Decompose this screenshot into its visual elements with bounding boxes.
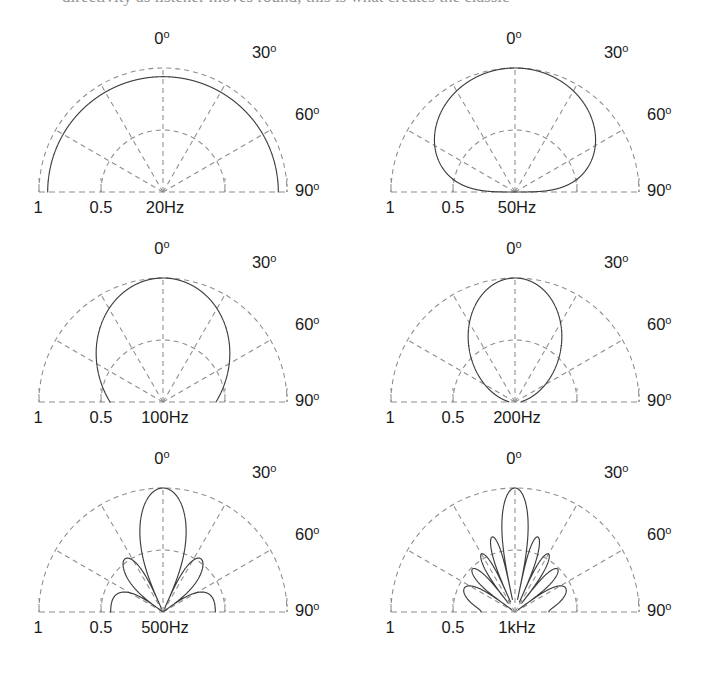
frequency-label: 1kHz — [498, 618, 536, 636]
frequency-label: 100Hz — [141, 408, 189, 426]
polar-plot-20hz: 0o30o60o90o10.520Hz — [0, 20, 352, 235]
angle-label-0: 0o — [506, 238, 521, 257]
radius-label-0.5: 0.5 — [90, 198, 113, 216]
grid-ray--60deg — [56, 130, 163, 192]
radius-label-1: 1 — [385, 198, 394, 216]
radius-label-1: 1 — [385, 618, 394, 636]
frequency-label: 200Hz — [493, 408, 541, 426]
angle-label-60: 60o — [647, 104, 671, 123]
angle-label-60: 60o — [295, 314, 319, 333]
angle-label-90: 90o — [295, 390, 319, 409]
grid-ray--60deg — [56, 550, 163, 612]
angle-label-90: 90o — [647, 600, 671, 619]
angle-label-30: 30o — [604, 42, 628, 61]
angle-label-0: 0o — [506, 28, 521, 47]
grid-ray-60deg — [515, 340, 622, 402]
grid-ray-60deg — [515, 550, 622, 612]
angle-label-0: 0o — [154, 28, 169, 47]
polar-plot-50hz: 0o30o60o90o10.550Hz — [352, 20, 704, 235]
angle-label-30: 30o — [604, 252, 628, 271]
polar-plot-grid: 0o30o60o90o10.520Hz0o30o60o90o10.550Hz0o… — [0, 0, 704, 690]
angle-label-90: 90o — [295, 600, 319, 619]
grid-ray--60deg — [408, 130, 515, 192]
angle-label-60: 60o — [647, 524, 671, 543]
radius-label-0.5: 0.5 — [442, 198, 465, 216]
radius-label-0.5: 0.5 — [90, 618, 113, 636]
angle-label-60: 60o — [647, 314, 671, 333]
frequency-label: 20Hz — [146, 198, 185, 216]
angle-label-30: 30o — [252, 42, 276, 61]
polar-plot-200hz: 0o30o60o90o10.5200Hz — [352, 230, 704, 445]
grid-ray-60deg — [515, 130, 622, 192]
frequency-label: 50Hz — [498, 198, 537, 216]
radius-label-1: 1 — [33, 408, 42, 426]
grid-ray-60deg — [163, 550, 270, 612]
angle-label-30: 30o — [252, 462, 276, 481]
angle-label-30: 30o — [604, 462, 628, 481]
frequency-label: 500Hz — [141, 618, 189, 636]
radius-label-0.5: 0.5 — [442, 618, 465, 636]
angle-label-90: 90o — [647, 390, 671, 409]
radius-label-1: 1 — [33, 618, 42, 636]
polar-plot-500hz: 0o30o60o90o10.5500Hz — [0, 440, 352, 655]
grid-ray--60deg — [408, 340, 515, 402]
angle-label-0: 0o — [506, 448, 521, 467]
grid-ray--60deg — [408, 550, 515, 612]
angle-label-0: 0o — [154, 448, 169, 467]
angle-label-60: 60o — [295, 104, 319, 123]
polar-plot-100hz: 0o30o60o90o10.5100Hz — [0, 230, 352, 445]
grid-ray-60deg — [163, 130, 270, 192]
radius-label-1: 1 — [385, 408, 394, 426]
angle-label-90: 90o — [647, 180, 671, 199]
radius-label-0.5: 0.5 — [442, 408, 465, 426]
grid-ray--60deg — [56, 340, 163, 402]
radius-label-0.5: 0.5 — [90, 408, 113, 426]
angle-label-30: 30o — [252, 252, 276, 271]
angle-label-0: 0o — [154, 238, 169, 257]
grid-ray-60deg — [163, 340, 270, 402]
radius-label-1: 1 — [33, 198, 42, 216]
angle-label-90: 90o — [295, 180, 319, 199]
polar-plot-1khz: 0o30o60o90o10.51kHz — [352, 440, 704, 655]
angle-label-60: 60o — [295, 524, 319, 543]
